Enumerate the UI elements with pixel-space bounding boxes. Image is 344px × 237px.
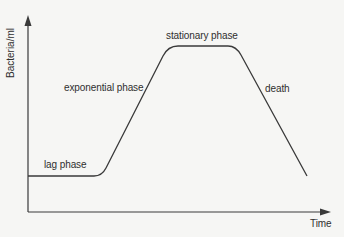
phase-label-death: death (265, 84, 290, 94)
phase-label-exponential: exponential phase (64, 83, 143, 93)
x-axis-arrow-icon (320, 209, 331, 216)
y-axis-label: Bacteria/ml (6, 28, 16, 78)
phase-label-lag: lag phase (44, 160, 86, 170)
x-axis-label: Time (310, 219, 331, 229)
y-axis-arrow-icon (25, 15, 32, 26)
growth-curve-line (28, 46, 307, 176)
phase-label-stationary: stationary phase (166, 31, 238, 41)
